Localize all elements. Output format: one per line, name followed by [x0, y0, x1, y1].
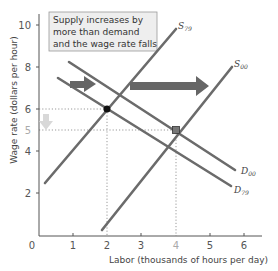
d00-label: D00 [240, 166, 256, 177]
x-tick-3: 3 [138, 240, 144, 251]
equilibrium-1979-point [104, 106, 111, 113]
note-line-3: and the wage rate falls [53, 39, 157, 49]
y-axis-title: Wage rate (dollars per hour) [9, 36, 19, 164]
x-tick-2: 2 [104, 240, 110, 251]
d79-label: D79 [233, 185, 249, 196]
note-line-1: Supply increases by [53, 15, 144, 25]
curves [45, 29, 235, 230]
demand-00-curve [69, 62, 235, 170]
x-tick-labels: 0 1 2 3 4 5 6 [29, 240, 247, 251]
x-tick-5: 5 [207, 240, 213, 251]
guide-lines [39, 109, 176, 236]
y-tick-2: 2 [25, 188, 31, 199]
y-tick-labels: 10 8 6 5 4 2 [18, 20, 31, 199]
chart: 10 8 6 5 4 2 0 1 2 3 4 5 6 Labor (thousa… [0, 0, 278, 271]
x-axis-title: Labor (thousands of hours per day) [109, 255, 268, 265]
s79-label: S79 [178, 21, 192, 32]
equilibrium-2000-point [173, 127, 180, 134]
x-tick-4: 4 [173, 240, 179, 251]
x-tick-6: 6 [241, 240, 247, 251]
y-tick-5: 5 [25, 125, 31, 136]
annotation-box: Supply increases by more than demand and… [49, 12, 157, 51]
x-tick-1: 1 [70, 240, 76, 251]
wage-fall-arrow [39, 114, 53, 130]
y-tick-10: 10 [18, 20, 31, 31]
x-tick-0: 0 [29, 240, 35, 251]
y-tick-8: 8 [25, 62, 31, 73]
y-tick-4: 4 [25, 146, 31, 157]
y-tick-6: 6 [25, 104, 31, 115]
note-line-2: more than demand [53, 27, 139, 37]
demand-79-curve [58, 78, 231, 186]
s00-label: S00 [234, 59, 248, 70]
supply-shift-arrow [130, 76, 209, 96]
